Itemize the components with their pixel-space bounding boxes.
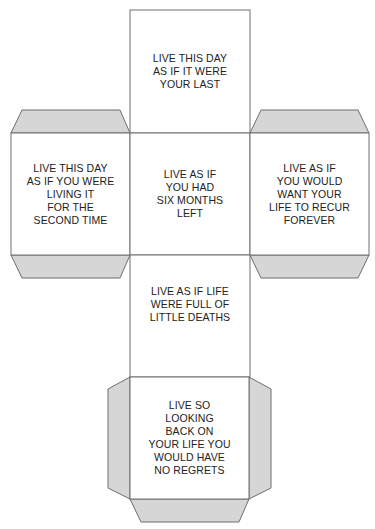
flap-bottom-left — [108, 377, 130, 499]
flap-right-bottom — [250, 255, 369, 278]
flap-bottom-base — [130, 499, 249, 522]
flap-right-top — [250, 110, 369, 133]
face-right-text: LIVE AS IF YOU WOULD WANT YOUR LIFE TO R… — [250, 133, 369, 255]
face-lower-text: LIVE AS IF LIFE WERE FULL OF LITTLE DEAT… — [130, 262, 250, 347]
face-bottom-text: LIVE SO LOOKING BACK ON YOUR LIFE YOU WO… — [130, 380, 249, 496]
face-left-label: LIVE THIS DAY AS IF YOU WERE LIVING IT F… — [27, 162, 115, 227]
face-bottom-label: LIVE SO LOOKING BACK ON YOUR LIFE YOU WO… — [148, 399, 230, 477]
flap-left-bottom — [11, 255, 130, 278]
face-top-text: LIVE THIS DAY AS IF IT WERE YOUR LAST — [130, 10, 250, 133]
face-lower-label: LIVE AS IF LIFE WERE FULL OF LITTLE DEAT… — [150, 285, 230, 324]
face-center-label: LIVE AS IF YOU HAD SIX MONTHS LEFT — [157, 168, 223, 220]
flap-left-top — [11, 110, 130, 133]
face-left-text: LIVE THIS DAY AS IF YOU WERE LIVING IT F… — [11, 133, 130, 255]
face-center-text: LIVE AS IF YOU HAD SIX MONTHS LEFT — [130, 133, 250, 255]
flap-bottom-right — [249, 377, 271, 499]
face-top-label: LIVE THIS DAY AS IF IT WERE YOUR LAST — [153, 52, 227, 91]
face-right-label: LIVE AS IF YOU WOULD WANT YOUR LIFE TO R… — [269, 162, 350, 227]
